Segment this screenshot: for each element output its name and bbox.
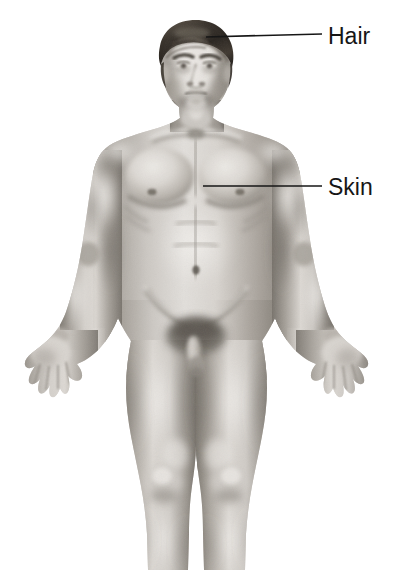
anatomy-figure-root: Hair Skin (0, 0, 393, 570)
label-hair: Hair (328, 23, 371, 49)
anatomy-illustration: Hair Skin (0, 0, 393, 570)
label-skin: Skin (328, 174, 373, 200)
